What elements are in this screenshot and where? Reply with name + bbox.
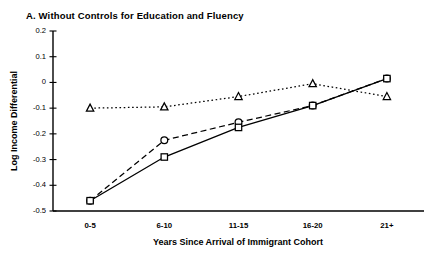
y-tick-label: -0.3: [33, 155, 46, 164]
x-tick-label: 11-15: [229, 221, 249, 230]
y-tick-label: -0.5: [33, 206, 46, 215]
x-tick-label: 21+: [380, 221, 394, 230]
series-triangle: [86, 80, 390, 111]
chart-page: A. Without Controls for Education and Fl…: [0, 0, 436, 257]
data-point-square: [310, 102, 316, 108]
x-axis-title: Years Since Arrival of Immigrant Cohort: [153, 237, 323, 247]
data-point-circle: [161, 137, 168, 144]
x-axis-group: 0-56-1011-1516-2021+: [53, 211, 424, 230]
y-tick-label: 0: [42, 77, 46, 86]
line-chart: 0.20.10-0.1-0.2-0.3-0.4-0.5 0-56-1011-15…: [0, 0, 436, 257]
y-tick-label: -0.1: [33, 103, 46, 112]
data-point-square: [161, 154, 167, 160]
data-point-triangle: [309, 80, 316, 87]
x-tick-label: 0-5: [84, 221, 96, 230]
data-point-square: [87, 198, 93, 204]
data-point-triangle: [86, 104, 93, 111]
x-tick-group: 0-56-1011-1516-2021+: [84, 221, 393, 230]
data-point-triangle: [383, 93, 390, 100]
y-tick-label: -0.2: [33, 129, 46, 138]
data-point-square: [235, 124, 241, 130]
data-point-square: [384, 75, 390, 81]
y-axis-title: Log Income Differential: [9, 71, 19, 171]
y-tick-label: 0.2: [35, 26, 46, 35]
y-axis-group: 0.20.10-0.1-0.2-0.3-0.4-0.5: [33, 26, 57, 215]
x-tick-label: 6-10: [156, 221, 172, 230]
x-tick-label: 16-20: [303, 221, 324, 230]
y-tick-label: -0.4: [33, 180, 46, 189]
series-group: [86, 75, 390, 204]
y-tick-label: 0.1: [35, 52, 46, 61]
